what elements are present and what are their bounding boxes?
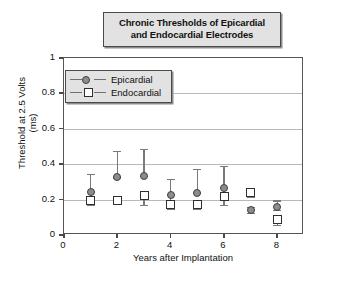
error-bar-cap-upper bbox=[167, 200, 175, 201]
circle-marker bbox=[247, 206, 255, 214]
error-bar-cap-lower bbox=[273, 210, 281, 211]
circle-marker bbox=[140, 172, 148, 180]
error-bar-cap-upper bbox=[273, 200, 281, 201]
error-bar-cap-upper bbox=[113, 151, 121, 152]
error-bar-cap-upper bbox=[220, 166, 228, 167]
error-bar-stem bbox=[143, 149, 144, 176]
y-tick-label: 0.8 bbox=[17, 87, 55, 97]
x-tick-label: 2 bbox=[101, 240, 131, 250]
error-bar-stem bbox=[197, 169, 198, 193]
x-tick-label: 8 bbox=[261, 240, 291, 250]
y-tick-label: 0.2 bbox=[17, 194, 55, 204]
error-bar-cap-lower bbox=[193, 193, 201, 194]
x-tick-mark bbox=[116, 234, 118, 238]
error-bar-cap-lower bbox=[140, 205, 148, 206]
x-axis-title: Years after Implantation bbox=[63, 252, 303, 263]
error-bar-cap-lower bbox=[247, 197, 255, 198]
y-tick-label: 0.4 bbox=[17, 158, 55, 168]
legend-item-endocardial: Endocardial bbox=[69, 86, 168, 99]
legend-label-endocardial: Endocardial bbox=[107, 87, 161, 98]
error-bar-stem bbox=[250, 188, 251, 197]
error-bar-cap-lower bbox=[113, 177, 121, 178]
error-bar-cap-upper bbox=[220, 192, 228, 193]
y-tick-label: 0 bbox=[17, 229, 55, 239]
error-bar-cap-upper bbox=[87, 174, 95, 175]
x-tick-mark bbox=[63, 234, 65, 238]
legend-item-epicardial: Epicardial bbox=[69, 73, 168, 86]
error-bar-stem bbox=[250, 207, 251, 213]
chart-figure: Chronic Thresholds of Epicardial and End… bbox=[0, 0, 338, 281]
error-bar-stem bbox=[223, 166, 224, 188]
circle-marker bbox=[87, 188, 95, 196]
x-tick-label: 0 bbox=[48, 240, 78, 250]
error-bar-stem bbox=[170, 200, 171, 208]
gridline bbox=[64, 164, 302, 165]
error-bar-stem bbox=[277, 200, 278, 210]
x-tick-mark bbox=[223, 234, 225, 238]
x-tick-label: 4 bbox=[155, 240, 185, 250]
error-bar-stem bbox=[90, 174, 91, 201]
y-tick-label: 0.6 bbox=[17, 123, 55, 133]
circle-marker-icon bbox=[69, 73, 107, 86]
square-marker bbox=[273, 215, 282, 224]
error-bar-cap-lower bbox=[273, 225, 281, 226]
circle-marker bbox=[113, 173, 121, 181]
gridline bbox=[64, 129, 302, 130]
error-bar-cap-lower bbox=[220, 205, 228, 206]
error-bar-stem bbox=[277, 215, 278, 226]
error-bar-cap-upper bbox=[273, 215, 281, 216]
error-bar-cap-upper bbox=[87, 197, 95, 198]
circle-marker bbox=[273, 203, 281, 211]
x-tick-mark bbox=[276, 234, 278, 238]
square-marker-icon bbox=[69, 86, 107, 99]
square-marker bbox=[193, 200, 202, 209]
error-bar-stem bbox=[223, 192, 224, 205]
error-bar-stem bbox=[143, 192, 144, 205]
error-bar-cap-lower bbox=[167, 209, 175, 210]
error-bar-cap-upper bbox=[247, 207, 255, 208]
error-bar-cap-upper bbox=[140, 192, 148, 193]
error-bar-cap-lower bbox=[247, 213, 255, 214]
error-bar-cap-upper bbox=[247, 188, 255, 189]
chart-legend: Epicardial Endocardial bbox=[65, 70, 172, 103]
error-bar-stem bbox=[90, 197, 91, 205]
error-bar-cap-lower bbox=[87, 200, 95, 201]
x-tick-label: 6 bbox=[208, 240, 238, 250]
legend-label-epicardial: Epicardial bbox=[107, 74, 153, 85]
error-bar-cap-lower bbox=[140, 176, 148, 177]
error-bar-stem bbox=[197, 200, 198, 209]
error-bar-cap-lower bbox=[220, 188, 228, 189]
circle-marker bbox=[167, 191, 175, 199]
error-bar-cap-upper bbox=[193, 200, 201, 201]
circle-marker bbox=[220, 184, 228, 192]
error-bar-cap-lower bbox=[113, 203, 121, 204]
error-bar-cap-lower bbox=[87, 205, 95, 206]
error-bar-cap-upper bbox=[167, 179, 175, 180]
error-bar-cap-lower bbox=[167, 203, 175, 204]
x-tick-mark bbox=[170, 234, 172, 238]
square-marker bbox=[166, 200, 175, 209]
gridline bbox=[64, 200, 302, 201]
chart-title: Chronic Thresholds of Epicardial and End… bbox=[103, 12, 281, 47]
circle-marker bbox=[193, 189, 201, 197]
chart-title-line-2: and Endocardial Electrodes bbox=[108, 29, 276, 41]
square-marker bbox=[246, 188, 255, 197]
y-tick-label: 1 bbox=[17, 52, 55, 62]
error-bar-cap-upper bbox=[193, 169, 201, 170]
error-bar-cap-lower bbox=[193, 209, 201, 210]
error-bar-cap-upper bbox=[140, 149, 148, 150]
chart-title-line-1: Chronic Thresholds of Epicardial bbox=[108, 17, 276, 29]
